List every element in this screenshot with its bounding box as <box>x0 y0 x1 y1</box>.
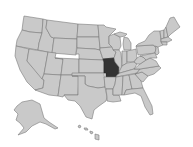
state-washington[interactable] <box>22 16 43 33</box>
state-kansas[interactable] <box>79 59 104 73</box>
state-north-dakota[interactable] <box>77 24 99 37</box>
state-vermont[interactable] <box>160 30 164 39</box>
state-montana[interactable] <box>46 20 78 39</box>
state-new-york[interactable] <box>136 31 163 47</box>
state-new-jersey[interactable] <box>155 46 159 55</box>
state-alaska[interactable] <box>14 100 58 135</box>
state-hawaii[interactable] <box>78 125 81 128</box>
us-map <box>0 0 193 147</box>
state-maine[interactable] <box>166 17 180 37</box>
state-new-mexico[interactable] <box>58 75 79 97</box>
state-hawaii-2[interactable] <box>84 128 88 130</box>
state-florida[interactable] <box>124 88 153 115</box>
state-hawaii-big[interactable] <box>95 134 99 140</box>
state-hawaii-3[interactable] <box>90 131 93 134</box>
state-wyoming[interactable] <box>52 38 77 55</box>
state-nebraska[interactable] <box>76 48 103 60</box>
state-michigan[interactable] <box>123 37 131 50</box>
